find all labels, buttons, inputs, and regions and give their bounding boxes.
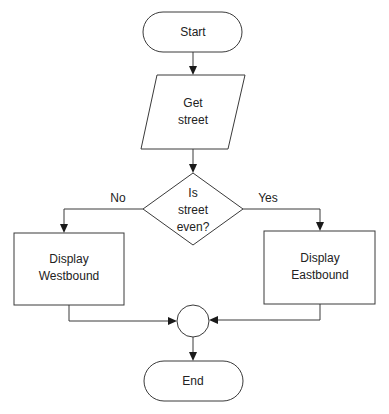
end-label: End — [182, 373, 203, 390]
edge-decision-yes — [243, 209, 320, 224]
arrowhead-icon — [209, 316, 218, 324]
connector-circle — [177, 305, 209, 337]
arrowhead-icon — [60, 224, 68, 233]
eastbound-label: Display Eastbound — [291, 250, 348, 284]
westbound-label: Display Westbound — [39, 251, 100, 285]
start-label: Start — [180, 24, 205, 41]
arrowhead-icon — [316, 222, 324, 231]
arrowhead-icon — [189, 66, 197, 75]
arrowhead-icon — [189, 352, 197, 361]
no-edge-label: No — [110, 190, 125, 207]
edge-west-to-connector — [69, 305, 170, 321]
edge-decision-no — [64, 209, 143, 226]
decision-label: Is street even? — [177, 185, 210, 236]
arrowhead-icon — [168, 317, 177, 325]
input-label: Get street — [178, 95, 208, 129]
arrowhead-icon — [189, 164, 197, 173]
yes-edge-label: Yes — [258, 190, 278, 207]
edge-east-to-connector — [216, 304, 320, 320]
